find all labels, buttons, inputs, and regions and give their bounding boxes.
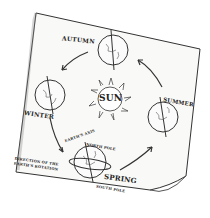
earth-spring <box>74 146 106 178</box>
label-sun: SUN <box>99 93 122 103</box>
